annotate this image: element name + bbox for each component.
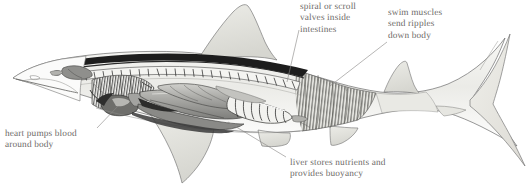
label-heart: heart pumps blood around body	[5, 129, 77, 152]
shark-anatomy-figure: spiral or scroll valves inside intestine…	[0, 0, 530, 186]
second-dorsal-fin	[384, 61, 420, 94]
swim-muscle-block	[295, 70, 376, 131]
muscle-taper-shade	[376, 92, 438, 113]
swim-muscles	[295, 70, 438, 131]
dorsal-fin	[199, 5, 277, 60]
label-liver: liver stores nutrients and provides buoy…	[290, 158, 386, 181]
shark-illustration	[0, 0, 530, 186]
leader-muscles	[330, 42, 387, 86]
label-spiral-valves: spiral or scroll valves inside intestine…	[300, 2, 356, 36]
head	[13, 56, 92, 101]
anal-fin	[330, 126, 358, 145]
label-swim-muscles: swim muscles send ripples down body	[388, 8, 442, 42]
